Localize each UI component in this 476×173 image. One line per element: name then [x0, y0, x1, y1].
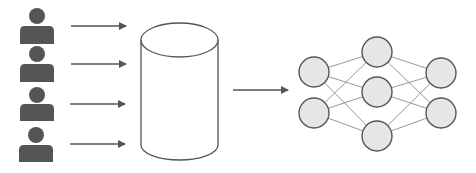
hidden-node	[362, 37, 392, 67]
input-node	[299, 98, 329, 128]
person-icon	[20, 8, 54, 44]
person-icon	[20, 87, 54, 121]
hidden-node	[362, 77, 392, 107]
diagram-svg	[0, 0, 476, 173]
user-group	[19, 8, 54, 162]
hidden-node	[362, 121, 392, 151]
person-icon	[19, 127, 53, 162]
input-node	[299, 57, 329, 87]
person-icon	[20, 46, 54, 82]
output-node	[426, 98, 456, 128]
network-nodes	[299, 37, 456, 151]
user-arrows	[70, 26, 126, 144]
output-node	[426, 58, 456, 88]
diagram-canvas	[0, 0, 476, 173]
database-cylinder-icon	[141, 23, 218, 160]
